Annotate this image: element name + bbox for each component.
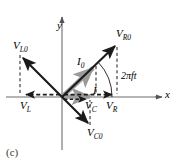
vl-label-sub: L: [27, 105, 31, 114]
vr-label: VR: [106, 100, 117, 114]
vc0-label: VC0: [87, 127, 102, 141]
vl0-label-main: V: [13, 39, 20, 51]
i-label: I: [93, 85, 97, 99]
vr0-phasor: [62, 46, 115, 97]
vc-label-sub: C: [92, 105, 97, 114]
vr0-label: VR0: [116, 28, 131, 42]
vl-label: VL: [20, 100, 31, 114]
angle-arc-group: [98, 62, 112, 97]
phasor-diagram-canvas: [0, 0, 176, 168]
vc-label-main: V: [85, 99, 92, 111]
vr-label-main: V: [106, 99, 113, 111]
figure-caption: (c): [6, 146, 18, 158]
axis-lines: [6, 17, 162, 150]
y-axis-label: y: [57, 20, 62, 31]
vr0-label-sub: R0: [123, 33, 131, 42]
vc0-label-main: V: [87, 126, 94, 138]
vl0-phasor: [23, 58, 62, 97]
vl-label-main: V: [20, 99, 27, 111]
angle-arc: [98, 62, 112, 97]
vr-label-sub: R: [113, 105, 118, 114]
i0-label-sub: 0: [81, 61, 85, 70]
phasor-diagram-figure: y x VL0 VR0 VC0 VL VR VC I0 I 2πft (c): [0, 0, 176, 168]
vc0-label-sub: C0: [94, 132, 103, 141]
i-label-main: I: [93, 84, 97, 96]
vr0-label-main: V: [116, 27, 123, 39]
angle-label: 2πft: [121, 71, 137, 81]
i0-label: I0: [77, 56, 84, 70]
x-axis-label: x: [165, 89, 170, 100]
vc-label: VC: [85, 100, 97, 114]
vl0-label: VL0: [13, 40, 28, 54]
phasor-arrows: [23, 46, 115, 123]
vl0-label-sub: L0: [20, 45, 28, 54]
